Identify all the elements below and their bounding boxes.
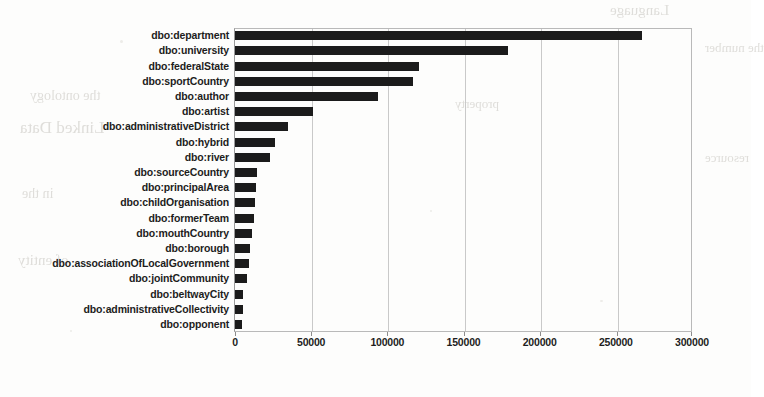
x-axis-tick-label: 50000 <box>297 336 325 348</box>
y-axis-tick-label: dbo:artist <box>0 106 229 117</box>
x-axis-tick-label: 250000 <box>599 336 633 348</box>
y-axis-tick-label: dbo:beltwayCity <box>0 289 229 300</box>
bar <box>235 107 313 116</box>
bar <box>235 77 413 86</box>
y-axis-tick-label: dbo:author <box>0 91 229 102</box>
bar <box>235 320 242 329</box>
y-axis-tick-label: dbo:borough <box>0 243 229 254</box>
bar <box>235 198 255 207</box>
y-axis-tick-label: dbo:sourceCountry <box>0 167 229 178</box>
y-axis-tick-label: dbo:hybrid <box>0 137 229 148</box>
y-axis-tick-label: dbo:formerTeam <box>0 213 229 224</box>
y-axis-tick-label: dbo:river <box>0 152 229 163</box>
bar <box>235 305 243 314</box>
bar <box>235 259 249 268</box>
bar <box>235 46 508 55</box>
y-axis-tick-label: dbo:university <box>0 45 229 56</box>
x-axis-tick-label: 150000 <box>447 336 481 348</box>
bar <box>235 229 252 238</box>
y-axis-tick-label: dbo:jointCommunity <box>0 273 229 284</box>
x-axis-tick-label: 200000 <box>523 336 557 348</box>
bar <box>235 153 270 162</box>
bar <box>235 290 243 299</box>
y-axis-tick-label: dbo:department <box>0 30 229 41</box>
y-axis-tick-label: dbo:mouthCountry <box>0 228 229 239</box>
bar <box>235 183 256 192</box>
y-axis-tick-label: dbo:principalArea <box>0 182 229 193</box>
bar <box>235 214 254 223</box>
bar <box>235 92 378 101</box>
bar <box>235 62 419 71</box>
y-axis-tick-label: dbo:childOrganisation <box>0 197 229 208</box>
y-axis-tick-label: dbo:sportCountry <box>0 76 229 87</box>
bar <box>235 274 247 283</box>
bar <box>235 31 642 40</box>
x-axis-tick-label: 100000 <box>370 336 404 348</box>
bar <box>235 168 257 177</box>
y-axis-tick-label: dbo:opponent <box>0 319 229 330</box>
x-axis-tick-label: 0 <box>232 336 238 348</box>
x-axis-tick-label: 300000 <box>675 336 709 348</box>
bars-layer <box>235 28 692 332</box>
y-axis-tick-label: dbo:associationOfLocalGovernment <box>0 258 229 269</box>
bar <box>235 138 275 147</box>
y-axis-tick-label: dbo:administrativeDistrict <box>0 121 229 132</box>
y-axis-tick-label: dbo:federalState <box>0 61 229 72</box>
bar <box>235 122 288 131</box>
x-axis-labels: 050000100000150000200000250000300000 <box>0 336 751 354</box>
y-axis-tick-label: dbo:administrativeCollectivity <box>0 304 229 315</box>
bar <box>235 244 250 253</box>
y-axis-labels: dbo:departmentdbo:universitydbo:federalS… <box>0 28 229 332</box>
